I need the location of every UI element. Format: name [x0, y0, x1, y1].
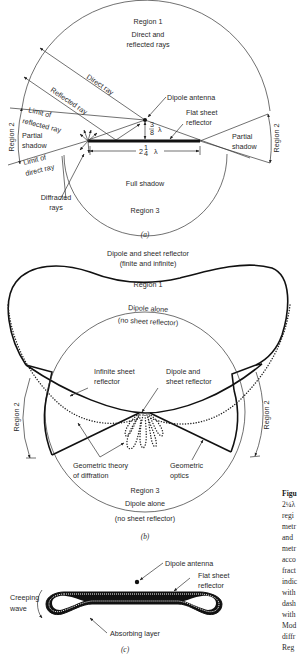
gtd-label-2: of diffration — [73, 471, 108, 480]
go-pointer — [192, 440, 203, 460]
c-dipole-label: Dipole antenna — [165, 559, 213, 568]
dipole-alone-circle — [45, 312, 245, 512]
full-shadow-label: Full shadow — [126, 179, 165, 188]
b-region2-left-label: Region 2 — [12, 403, 21, 432]
dipole-sheet-label-1: Dipole and — [166, 367, 200, 376]
side-caption-line-1: 2¼λ — [282, 500, 295, 509]
direct-ray-label: Direct ray — [85, 72, 116, 97]
side-caption-line-11: with — [282, 610, 296, 619]
dipole-alone-bottom-2: (no sheet reflector) — [115, 514, 175, 523]
dipole-antenna-dot — [143, 118, 147, 122]
diffracted-label-2: rays — [49, 203, 63, 212]
go-right-line — [150, 413, 231, 452]
side-caption-line-2: regi — [282, 511, 294, 520]
caption-b: (b) — [141, 532, 150, 541]
side-caption-line-4: and — [282, 533, 293, 542]
go-right-arc — [231, 390, 238, 452]
c-flat-sheet-label-2: reflector — [198, 581, 225, 590]
partial-shadow-left-1: Partial — [22, 131, 43, 140]
dipole-alone-bottom-1: Dipole alone — [125, 499, 165, 508]
dipole-sheet-pointer — [142, 388, 158, 412]
region2-left-label: Region 2 — [7, 123, 16, 152]
region2-right-tick — [250, 456, 260, 457]
dipole-alone-top-2: (no sheet reflector) — [118, 315, 179, 327]
diffracted-label-1: Diffracted — [41, 193, 72, 202]
b-title-2: (finite and infinite) — [120, 259, 177, 268]
region2-left-arc — [23, 378, 30, 458]
absorbing-label: Absorbing layer — [110, 629, 161, 638]
gtd-label-1: Geometric theory — [73, 461, 129, 470]
diagram-canvas: Region 1 Direct and reflected rays Direc… — [0, 0, 298, 656]
c-dipole-dot — [135, 580, 139, 584]
creeping-label-2: wave — [9, 604, 27, 613]
region3-arc — [64, 154, 227, 236]
creeping-label-1: Creeping — [10, 593, 39, 602]
region3-label: Region 3 — [131, 206, 160, 215]
go-label-1: Geometric — [170, 461, 204, 470]
side-caption-line-0: Figu — [282, 489, 298, 498]
side-caption-line-14: Reg — [282, 643, 294, 652]
partial-shadow-left-2: shadow — [22, 141, 48, 150]
partial-shadow-right-2: shadow — [232, 142, 258, 151]
direct-reflected-label-2: reflected rays — [126, 40, 170, 49]
side-caption-line-6: acco — [282, 555, 296, 564]
flat-sheet-pointer — [170, 124, 183, 139]
flat-sheet-label-1: Flat sheet — [186, 108, 218, 117]
infinite-sheet-label-2: reflector — [94, 377, 121, 386]
region1-label: Region 1 — [134, 17, 163, 26]
b-region2-right-label: Region 2 — [262, 401, 271, 430]
figure-c: Dipole antenna Flat sheet reflector Cree… — [9, 559, 230, 654]
side-caption-line-9: with — [282, 588, 296, 597]
region2-right-label: Region 2 — [272, 124, 281, 153]
partial-shadow-right-1: Partial — [232, 132, 253, 141]
side-caption-line-3: metr — [282, 522, 296, 531]
infinite-sheet-label-1: Infinite sheet — [94, 367, 135, 376]
side-caption-line-5: metr — [282, 544, 296, 553]
c-flat-sheet-pointer — [174, 578, 190, 591]
b-region1-label: Region 1 — [134, 280, 163, 289]
caption-a: (a) — [141, 230, 150, 239]
width-lambda: λ — [154, 147, 158, 156]
go-left-line — [52, 413, 139, 455]
side-caption-line-12: Mod — [282, 621, 297, 630]
side-caption-line-10: dash — [282, 599, 296, 608]
c-absorbing-pointer — [90, 618, 107, 633]
direct-reflected-label-1: Direct and — [132, 30, 165, 39]
height-den: 8 — [150, 128, 154, 137]
height-lambda: λ — [158, 125, 162, 134]
c-flat-sheet-label-1: Flat sheet — [198, 571, 230, 580]
width-whole: 2 — [139, 147, 143, 156]
figure-a: Region 1 Direct and reflected rays Direc… — [7, 0, 281, 239]
c-dipole-pointer — [140, 563, 163, 580]
dipole-sheet-label-2: sheet reflector — [166, 377, 212, 386]
b-title-1: Dipole and sheet reflector — [107, 249, 190, 258]
figure-b: Dipole and sheet reflector (finite and i… — [8, 249, 290, 541]
side-caption-line-7: fract — [282, 566, 297, 575]
dipole-antenna-pointer — [148, 97, 166, 117]
side-caption-line-8: indic — [282, 577, 298, 586]
go-label-2: optics — [170, 471, 189, 480]
caption-c: (c) — [121, 645, 130, 654]
region2-right-arc — [268, 114, 271, 163]
edge-to-dipole-line — [88, 120, 145, 140]
reflected-ray-bounce — [116, 124, 140, 140]
dipole-antenna-label: Dipole antenna — [167, 93, 215, 102]
limit-direct-line — [8, 140, 90, 165]
gtd-shadow-lobes — [125, 414, 163, 449]
width-den: 4 — [144, 149, 148, 158]
b-region3-label: Region 3 — [131, 486, 160, 495]
flat-sheet-label-2: reflector — [186, 118, 213, 127]
side-caption: Figu 2¼λ regi metr and metr acco fract i… — [282, 489, 298, 652]
side-caption-line-13: diffr — [282, 632, 296, 641]
gtd-pointer-2 — [100, 443, 124, 457]
